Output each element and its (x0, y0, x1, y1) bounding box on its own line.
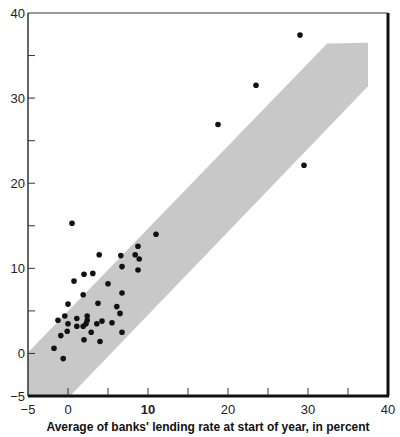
data-point (97, 339, 103, 345)
scatter-chart: −5010203040−5010203040 Average of banks'… (0, 0, 400, 437)
x-axis-label: Average of banks' lending rate at start … (46, 420, 369, 434)
data-point (118, 253, 124, 259)
data-point (297, 32, 303, 38)
data-point (62, 313, 68, 319)
y-tick-label: 10 (11, 261, 25, 276)
data-point (119, 264, 125, 270)
data-point (99, 318, 105, 324)
data-point (119, 290, 125, 296)
data-point (60, 356, 66, 362)
data-point (90, 271, 96, 277)
x-tick-label: −5 (21, 402, 36, 417)
data-point (55, 318, 61, 324)
data-point (74, 316, 80, 322)
x-tick-label: 0 (64, 402, 71, 417)
data-point (88, 329, 94, 335)
x-tick-label: 10 (141, 402, 155, 417)
data-point (153, 232, 159, 238)
data-point (58, 333, 64, 339)
data-point (117, 311, 123, 317)
band-layer (28, 43, 368, 396)
y-tick-label: −5 (10, 389, 25, 404)
data-point (65, 301, 71, 307)
data-point (109, 320, 115, 326)
data-point (95, 300, 101, 306)
y-tick-label: 30 (11, 91, 25, 106)
shaded-band (28, 43, 368, 396)
data-point (69, 220, 75, 226)
x-tick-label: 30 (301, 402, 315, 417)
data-point (71, 278, 77, 284)
data-point (64, 329, 70, 335)
y-tick-label: 40 (11, 6, 25, 21)
y-tick-label: 0 (18, 346, 25, 361)
data-point (132, 252, 138, 258)
data-point (94, 321, 100, 327)
data-point (80, 292, 86, 298)
data-point (301, 163, 307, 169)
data-point (51, 346, 57, 352)
data-point (83, 321, 89, 327)
x-tick-label: 20 (221, 402, 235, 417)
data-point (81, 272, 87, 278)
data-point (81, 337, 87, 343)
data-point (114, 304, 120, 310)
data-point (119, 329, 125, 335)
data-point (253, 83, 259, 89)
data-point (65, 321, 71, 327)
data-point (136, 256, 142, 262)
data-point (96, 252, 102, 258)
y-tick-label: 20 (11, 176, 25, 191)
data-point (105, 281, 111, 287)
data-point (135, 243, 141, 249)
data-point (215, 122, 221, 128)
data-point (74, 323, 80, 329)
x-tick-label: 40 (381, 402, 395, 417)
data-point (135, 267, 141, 273)
